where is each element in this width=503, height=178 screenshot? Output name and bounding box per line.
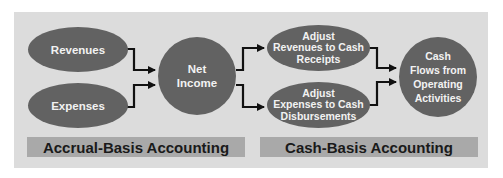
adjust-expenses-label: Adjust Expenses to Cash Disbursements: [273, 88, 363, 123]
cash-basis-label: Cash-Basis Accounting: [285, 139, 453, 156]
net-income-node: Net Income: [158, 37, 236, 115]
net-income-label: Net Income: [177, 62, 217, 90]
expenses-node: Expenses: [28, 83, 128, 128]
accrual-basis-label: Accrual-Basis Accounting: [43, 139, 229, 156]
cash-flows-node: Cash Flows from Operating Activities: [399, 37, 477, 117]
cash-flows-label: Cash Flows from Operating Activities: [410, 49, 466, 105]
adjust-revenues-node: Adjust Revenues to Cash Receipts: [267, 25, 370, 71]
adjust-expenses-node: Adjust Expenses to Cash Disbursements: [267, 82, 370, 128]
expenses-label: Expenses: [51, 99, 105, 113]
adjust-revenues-label: Adjust Revenues to Cash Receipts: [273, 31, 364, 66]
accrual-basis-bar: Accrual-Basis Accounting: [27, 137, 245, 157]
revenues-node: Revenues: [28, 27, 128, 72]
cash-basis-bar: Cash-Basis Accounting: [260, 137, 478, 157]
revenues-label: Revenues: [51, 43, 105, 57]
